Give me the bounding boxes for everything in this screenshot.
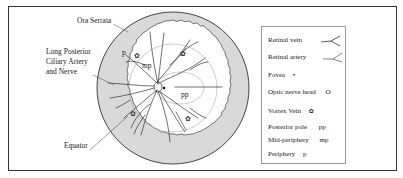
posterior-pole-marker: pp — [181, 90, 189, 99]
vortex-vein-icon: ✿ — [130, 110, 136, 118]
vortex-vein-icon: ✿ — [180, 50, 186, 58]
legend-vortex-vein: Vortex Vein ✿ — [268, 106, 314, 116]
equator-label: Equator — [64, 141, 88, 150]
legend-retinal-vein: Retinal vein — [268, 36, 302, 45]
fovea-icon — [163, 87, 166, 90]
fovea-legend-icon: • — [293, 71, 295, 79]
legend-posterior-pole: Posterior pole pp — [268, 123, 326, 132]
long-posterior-label-3: and Nerve — [46, 67, 77, 76]
legend: Retinal vein Retinal artery Fovea • Opti… — [261, 26, 346, 164]
vortex-vein-icon: ✿ — [134, 52, 140, 60]
legend-optic-nerve-head: Optic nerve head O — [268, 88, 331, 97]
retinal-artery-icon — [322, 51, 344, 63]
retinal-vein-icon — [320, 35, 342, 47]
legend-periphery: Periphery p — [268, 150, 306, 159]
vortex-vein-legend-icon: ✿ — [309, 107, 314, 114]
long-posterior-label-1: Long Posterior — [46, 47, 91, 56]
mid-periphery-marker: mp — [142, 61, 152, 70]
legend-fovea: Fovea • — [268, 71, 295, 80]
ora-serrata-label: Ora Serrata — [77, 16, 111, 25]
periphery-marker: p — [122, 48, 126, 57]
vortex-vein-icon: ✿ — [185, 115, 191, 123]
legend-retinal-artery: Retinal artery — [268, 53, 306, 62]
optic-nerve-legend-icon: O — [326, 88, 331, 96]
long-posterior-label-2: Ciliary Artery — [46, 57, 88, 66]
legend-mid-periphery: Mid-periphery mp — [268, 136, 329, 145]
